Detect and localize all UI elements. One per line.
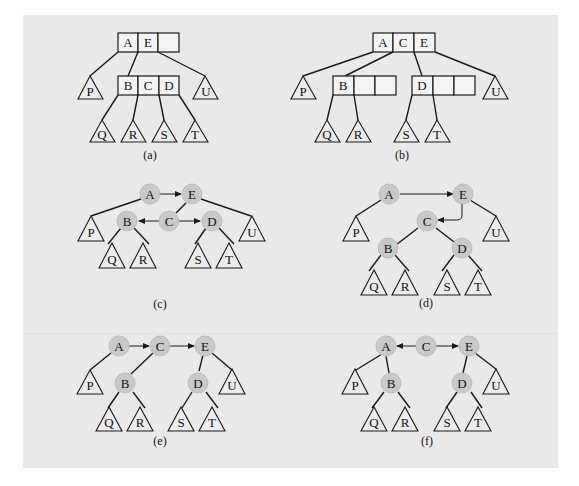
caption-c: (c) [153, 297, 166, 311]
svg-text:C: C [156, 339, 165, 354]
svg-text:P: P [299, 84, 306, 99]
svg-text:U: U [491, 225, 501, 240]
svg-text:T: T [208, 415, 216, 430]
svg-text:T: T [433, 127, 441, 142]
panel-b: A C E B D P Q R S T U [291, 33, 508, 162]
btree-node-child: B C D [118, 76, 179, 95]
svg-text:U: U [247, 225, 257, 240]
key-label: A [378, 35, 388, 50]
svg-text:P: P [86, 378, 93, 393]
svg-text:Q: Q [369, 415, 379, 430]
caption-e: (e) [153, 434, 166, 448]
key-label: A [123, 35, 133, 50]
vh-nodes: A C E B D [376, 336, 479, 393]
svg-text:P: P [351, 378, 358, 393]
panel-f: A C E B D P Q R S T U (f) [342, 336, 509, 448]
btree-node-left: B [333, 76, 396, 95]
svg-text:S: S [443, 279, 450, 294]
svg-text:C: C [422, 339, 431, 354]
key-label: C [399, 35, 408, 50]
panel-e: A C E B D P Q R S T U (e) [77, 336, 245, 448]
vh-nodes: A E C B D [378, 184, 473, 258]
svg-text:D: D [457, 241, 466, 256]
subtree-triangles: P Q R S T U [342, 369, 509, 431]
svg-text:E: E [188, 187, 196, 202]
svg-text:R: R [354, 127, 363, 142]
svg-text:R: R [401, 415, 410, 430]
key-label: E [144, 35, 152, 50]
svg-text:Q: Q [107, 252, 117, 267]
svg-text:T: T [191, 127, 199, 142]
svg-text:Q: Q [97, 127, 107, 142]
svg-text:D: D [193, 376, 202, 391]
svg-text:Q: Q [322, 127, 332, 142]
caption-b: (b) [395, 148, 409, 162]
svg-text:P: P [87, 225, 94, 240]
svg-text:R: R [401, 279, 410, 294]
svg-text:U: U [491, 378, 501, 393]
svg-text:E: E [465, 339, 473, 354]
svg-text:A: A [114, 339, 124, 354]
svg-text:Q: Q [104, 415, 114, 430]
svg-text:D: D [457, 376, 466, 391]
svg-text:B: B [384, 241, 393, 256]
svg-text:C: C [423, 214, 432, 229]
svg-text:S: S [194, 252, 201, 267]
svg-text:A: A [381, 339, 391, 354]
svg-text:E: E [459, 187, 467, 202]
svg-text:S: S [402, 127, 409, 142]
svg-text:C: C [165, 214, 174, 229]
svg-text:P: P [352, 225, 359, 240]
btree-node-root: A E [118, 33, 179, 52]
svg-text:B: B [123, 214, 132, 229]
key-label: D [164, 78, 173, 93]
key-label: B [339, 78, 348, 93]
b-tree-transformation-diagram: A E B C D P Q R S T U (a) [0, 0, 579, 486]
caption-d: (d) [419, 296, 433, 310]
svg-text:U: U [201, 84, 211, 99]
panel-d: A E C B D P Q R S T U (d) [343, 184, 509, 310]
svg-text:R: R [136, 415, 145, 430]
btree-node-right: D [412, 76, 475, 95]
key-label: C [144, 78, 153, 93]
svg-text:T: T [225, 252, 233, 267]
vh-nodes: A E B C D [117, 184, 222, 231]
svg-text:P: P [86, 84, 93, 99]
svg-text:T: T [474, 279, 482, 294]
svg-text:U: U [227, 378, 237, 393]
svg-text:S: S [160, 127, 167, 142]
svg-text:Q: Q [369, 279, 379, 294]
vh-nodes: A C E B D [109, 336, 215, 393]
svg-text:U: U [491, 84, 501, 99]
key-label: E [420, 35, 428, 50]
caption-a: (a) [143, 148, 156, 162]
svg-text:T: T [474, 415, 482, 430]
svg-text:E: E [201, 339, 209, 354]
btree-node-root: A C E [373, 33, 435, 52]
key-label: B [124, 78, 133, 93]
svg-text:B: B [387, 376, 396, 391]
svg-text:S: S [177, 415, 184, 430]
svg-text:A: A [384, 187, 394, 202]
panel-c: A E B C D P Q R S T U (c) [78, 184, 265, 311]
svg-text:D: D [207, 214, 216, 229]
key-label: D [417, 78, 426, 93]
svg-text:S: S [443, 415, 450, 430]
svg-text:A: A [145, 187, 155, 202]
subtree-triangles: P Q R S T U [77, 369, 245, 431]
panel-a: A E B C D P Q R S T U (a) [78, 33, 218, 162]
svg-text:B: B [121, 376, 130, 391]
svg-text:R: R [139, 252, 148, 267]
caption-f: (f) [421, 434, 433, 448]
svg-text:R: R [129, 127, 138, 142]
